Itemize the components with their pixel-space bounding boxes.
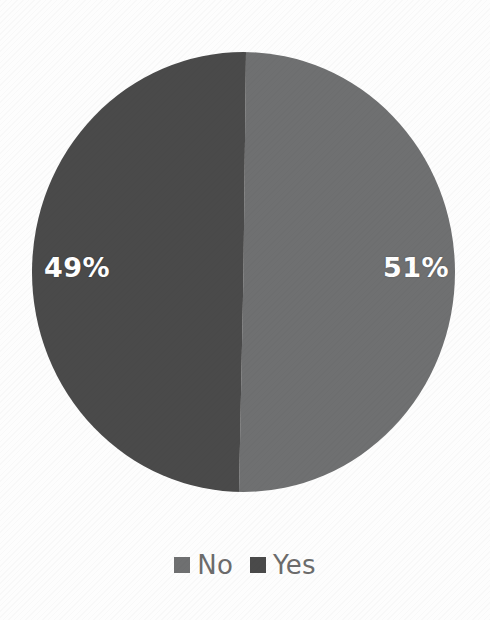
- pie-chart-figure: 49% 51% No Yes: [0, 0, 490, 620]
- chart-legend: No Yes: [0, 552, 490, 578]
- legend-swatch-no-icon: [174, 557, 190, 573]
- legend-label-yes: Yes: [273, 552, 316, 578]
- legend-item-yes[interactable]: Yes: [250, 552, 316, 578]
- legend-swatch-yes-icon: [250, 557, 266, 573]
- legend-label-no: No: [197, 552, 233, 578]
- pie-slice-label-no: 51%: [383, 252, 449, 283]
- legend-item-no[interactable]: No: [174, 552, 233, 578]
- pie-slice-label-yes: 49%: [44, 252, 110, 283]
